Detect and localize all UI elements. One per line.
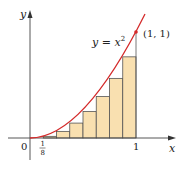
x-axis-arrow-icon — [168, 136, 176, 141]
riemann-sum-figure: y = x2 (1, 1) 0 1 8 1 x y — [0, 0, 189, 171]
rectangle-2 — [57, 131, 70, 138]
rectangle-5 — [96, 97, 109, 138]
tick-eighth-numerator: 1 — [41, 140, 45, 148]
rectangle-3 — [70, 123, 83, 138]
y-axis-label: y — [19, 8, 27, 21]
riemann-rectangles — [43, 57, 136, 138]
rectangle-4 — [83, 112, 96, 139]
x-axis-label: x — [169, 142, 176, 155]
y-axis-arrow-icon — [28, 10, 33, 18]
origin-label: 0 — [21, 141, 27, 152]
point-1-1 — [134, 30, 138, 34]
point-label: (1, 1) — [143, 28, 170, 39]
tick-eighth-denominator: 8 — [41, 149, 45, 157]
curve-label: y = x2 — [91, 35, 125, 49]
rectangle-6 — [110, 78, 123, 138]
rectangle-7 — [123, 57, 136, 138]
tick-one-label: 1 — [133, 141, 139, 152]
